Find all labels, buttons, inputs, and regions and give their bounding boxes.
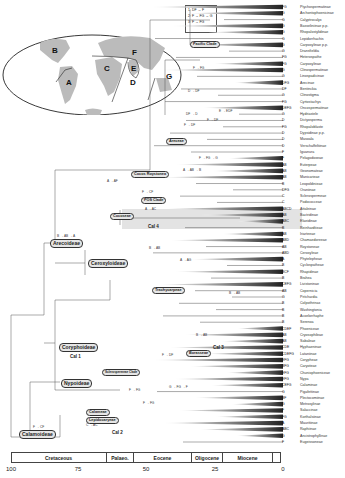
taxon-name: Carpoxylinae: [300, 62, 321, 66]
taxon-name: Eugeissoneae: [300, 440, 323, 444]
clade-cocoseae: Cocoseae: [110, 213, 134, 220]
axis-tick-label: 0: [278, 466, 288, 472]
taxon-name: Copernicia: [300, 289, 317, 293]
taxon-name: Carpoxylinae p.p.: [300, 43, 328, 47]
taxon-area: F: [282, 150, 297, 154]
taxon-area: BF: [282, 396, 297, 400]
taxon-area: G: [282, 390, 297, 394]
taxon-name: Ceroxyleae: [300, 251, 318, 255]
taxon-name: Corypheae: [300, 358, 318, 362]
taxon-name: Salaccinae: [300, 408, 318, 412]
taxon-area: ABC: [282, 219, 297, 223]
transition-label: F → CF: [142, 190, 153, 194]
taxon-area: AB: [282, 213, 297, 217]
cal-4: Cal 4: [148, 224, 159, 229]
taxon-area: G: [282, 68, 297, 72]
taxon-name: Hydriastele: [300, 112, 318, 116]
axis-tick-label: 75: [73, 466, 83, 472]
taxon-name: Pritchardia: [300, 295, 317, 299]
taxon-area: AB: [282, 245, 297, 249]
taxon-name: Bentinckia: [300, 87, 317, 91]
taxon-area: DF: [282, 87, 297, 91]
taxon-name: Iguanura: [300, 150, 314, 154]
taxon-name: Manicarieae: [300, 175, 320, 179]
axis-tick-label: 100: [6, 466, 16, 472]
taxon-name: Plectocomiinae: [300, 396, 324, 400]
transition-label: F → DF: [162, 353, 173, 357]
taxon-area: A: [282, 421, 297, 425]
taxon-name: Ptychospermatinae: [300, 5, 331, 9]
taxon-area: D: [282, 118, 297, 122]
taxon-name: Serenoa: [300, 320, 314, 324]
transition-label: A → AB → B: [183, 168, 201, 172]
taxon-area: D: [282, 144, 297, 148]
taxon-area: FG: [282, 62, 297, 66]
taxon-area: CDEFG: [282, 352, 297, 356]
taxon-name: Caryoteae: [300, 364, 317, 368]
taxon-name: Phytelepheae: [300, 257, 322, 261]
taxon-name: Nypa: [300, 377, 308, 381]
taxon-name: Clinospermatinae: [300, 68, 328, 72]
clade-arecoideae: Arecoideae: [50, 239, 83, 248]
cal-2: Cal 2: [112, 430, 123, 435]
taxon-area: G: [282, 93, 297, 97]
taxon-area: ABC: [282, 427, 297, 431]
taxon-area: B: [282, 314, 297, 318]
taxon-name: Pigafettinae: [300, 390, 319, 394]
taxon-area: D: [282, 131, 297, 135]
taxon-area: CEFG: [282, 383, 297, 387]
taxon-name: Korthalsiinae: [300, 415, 321, 419]
taxon-name: Sabaleae: [300, 339, 315, 343]
taxon-area: B: [282, 226, 297, 230]
taxon-area: FG: [282, 5, 297, 9]
taxon-area: G: [282, 37, 297, 41]
cal-1: Cal 1: [70, 354, 81, 359]
taxon-name: Reinhardtieae: [300, 226, 322, 230]
taxon-name: Rhopalostylidinae: [300, 30, 328, 34]
clade-pos: POS Clade: [141, 197, 166, 204]
taxon-name: Masoala: [300, 137, 314, 141]
taxon-name: Ancistrophyllinae: [300, 434, 327, 438]
transition-label: F → FG → G: [199, 156, 218, 160]
taxon-area: F: [282, 156, 297, 160]
transition-label: D → DF: [188, 89, 200, 93]
taxon-area: AB: [282, 163, 297, 167]
taxon-area: CDE: [282, 345, 297, 349]
taxon-name: Rhopaloblaste: [300, 125, 323, 129]
taxon-name: Euterpeae: [300, 163, 317, 167]
epoch-label: Oligocene: [191, 453, 222, 463]
taxon-name: Oraniinae: [300, 188, 316, 192]
taxon-area: BFG: [282, 364, 297, 368]
transition-label: B → AB: [149, 246, 160, 250]
taxon-area: EFG: [282, 377, 297, 381]
taxon-name: Basseliniinae p.p.: [300, 24, 328, 28]
taxon-area: AB: [282, 333, 297, 337]
transition-label: A → AG: [180, 258, 191, 262]
taxon-name: Rhapidinae: [300, 270, 318, 274]
taxon-name: Washingtonia: [300, 308, 322, 312]
clade-ceroxyloideae: Ceroxyloideae: [88, 259, 128, 268]
taxon-area: G: [282, 49, 297, 53]
taxon-area: AB: [282, 289, 297, 293]
taxon-area: ABD: [282, 251, 297, 255]
clade-sclerospermeae: Sclerospermeae Clade: [102, 369, 140, 376]
transition-label: F → FG: [143, 401, 154, 405]
taxon-area: FG: [282, 125, 297, 129]
taxon-area: CDEF: [282, 327, 297, 331]
taxon-name: Dictyosperma: [300, 118, 322, 122]
transition-label: B → AB: [229, 291, 240, 295]
taxon-name: Archontophoenicinae: [300, 11, 334, 15]
taxon-area: B: [282, 182, 297, 186]
epoch-label: Miocene: [222, 453, 272, 463]
taxon-name: Verschaffeltiinae: [300, 144, 326, 148]
taxon-name: Cyrtostachys: [300, 100, 321, 104]
taxon-area: G: [282, 18, 297, 22]
transition-label: C → AC: [86, 423, 98, 427]
taxon-name: Chamaedoreeae: [300, 238, 327, 242]
taxon-name: Cryosophileae: [300, 333, 323, 337]
epoch-label: Palaeo.: [106, 453, 133, 463]
clade-calamoideae: Calamoideae: [19, 430, 56, 439]
transition-label: F → DF: [184, 123, 195, 127]
taxon-name: Calyptrocalyx: [300, 18, 322, 22]
taxon-name: Lataniinae: [300, 352, 317, 356]
